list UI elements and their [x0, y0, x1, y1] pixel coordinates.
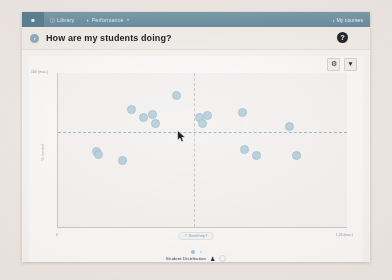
help-icon[interactable]: ? [337, 32, 348, 43]
filter-glyph: ▼ [347, 61, 353, 68]
need-help-label: Need help? [189, 234, 207, 238]
filter-icon[interactable]: ▼ [344, 58, 357, 71]
scatter-point[interactable] [252, 151, 261, 160]
scatter-point[interactable] [127, 105, 136, 114]
scatter-point[interactable] [139, 113, 148, 122]
gear-glyph: ⚙ [331, 61, 337, 68]
my-courses-link[interactable]: ‹ My courses [333, 17, 370, 23]
scatter-point[interactable] [148, 110, 157, 119]
back-button[interactable]: ‹ [30, 34, 39, 43]
scatter-point[interactable] [94, 150, 103, 159]
scatter-point[interactable] [118, 156, 127, 165]
top-navbar: ■ ◫ Library ◐ Performance ▾ ‹ My courses [22, 12, 370, 27]
need-help-button[interactable]: ? Need help? [178, 232, 214, 240]
app-window: ■ ◫ Library ◐ Performance ▾ ‹ My courses… [22, 12, 370, 262]
nav-item-performance-label: Performance [92, 17, 124, 23]
nav-item-performance[interactable]: ◐ Performance ▾ [80, 12, 134, 27]
legend-empty-circle-icon [219, 255, 226, 262]
page-header: ‹ How are my students doing? ? [22, 27, 370, 50]
person-icon: ♟ [210, 256, 215, 262]
scatter-point[interactable] [172, 91, 181, 100]
scatter-plot[interactable] [57, 73, 347, 228]
reference-line-horizontal [58, 132, 347, 133]
reference-line-vertical [194, 73, 195, 227]
page-title: How are my students doing? [46, 33, 172, 43]
gear-icon[interactable]: ⚙ [327, 58, 340, 71]
performance-icon: ◐ [86, 17, 89, 23]
nav-item-library-label: Library [57, 17, 74, 23]
chevron-left-icon: ‹ [34, 36, 36, 41]
help-glyph: ? [340, 34, 345, 42]
x-axis-min-label: 0 [56, 233, 58, 237]
scatter-point[interactable] [240, 145, 249, 154]
my-courses-label: My courses [336, 17, 363, 23]
question-icon: ? [185, 234, 187, 238]
chart-toolbar: ⚙ ▼ [327, 58, 357, 71]
chart-card: ⚙ ▼ 100 (max.) % correct 0 1.23 (max.) [29, 56, 363, 262]
nav-item-library[interactable]: ◫ Library [44, 12, 80, 27]
legend-dot-small-icon [200, 251, 202, 253]
chevron-down-icon: ▾ [127, 17, 129, 22]
chart-legend: Student Distribution ♟ [29, 250, 363, 262]
library-icon: ◫ [50, 17, 55, 23]
chevron-left-icon: ‹ [333, 17, 335, 23]
x-axis-max-label: 1.23 (max.) [336, 233, 353, 237]
screenshot-root: ■ ◫ Library ◐ Performance ▾ ‹ My courses… [0, 0, 392, 280]
scatter-point[interactable] [292, 151, 301, 160]
y-axis-title: % correct [41, 143, 45, 160]
legend-label: Student Distribution [166, 256, 206, 261]
legend-row: Student Distribution ♟ [166, 255, 226, 262]
plot-area[interactable] [57, 73, 347, 228]
scatter-point[interactable] [151, 119, 160, 128]
scatter-point[interactable] [285, 122, 294, 131]
y-axis-max-label: 100 (max.) [31, 70, 48, 74]
home-icon[interactable]: ■ [22, 12, 44, 27]
scatter-point[interactable] [198, 119, 207, 128]
legend-dot-large-icon [191, 250, 195, 254]
scatter-point[interactable] [238, 108, 247, 117]
legend-dots [191, 250, 202, 254]
